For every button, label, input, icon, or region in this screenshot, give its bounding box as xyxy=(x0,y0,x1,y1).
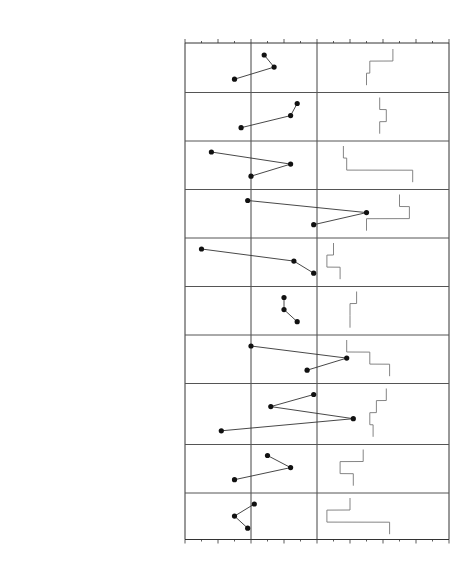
data-point xyxy=(219,428,224,433)
data-point xyxy=(351,416,356,421)
skyline-agg xyxy=(327,498,390,534)
profile-man xyxy=(199,246,316,275)
profile-chart xyxy=(0,0,476,573)
data-point xyxy=(305,368,310,373)
data-point xyxy=(288,162,293,167)
data-point xyxy=(295,101,300,106)
skyline-ant xyxy=(340,450,363,486)
data-point xyxy=(232,477,237,482)
profile-ant xyxy=(232,453,293,482)
data-point xyxy=(209,149,214,154)
data-point xyxy=(232,514,237,519)
data-point xyxy=(288,113,293,118)
data-point xyxy=(252,501,257,506)
profile-som xyxy=(232,52,277,81)
profile-bor xyxy=(219,392,356,434)
skyline-anx xyxy=(380,98,387,134)
data-point xyxy=(265,453,270,458)
data-point xyxy=(311,392,316,397)
data-point xyxy=(245,526,250,531)
profile-agg xyxy=(232,501,257,530)
skyline-ard xyxy=(343,146,412,182)
data-point xyxy=(288,465,293,470)
data-point xyxy=(248,343,253,348)
skyline-som xyxy=(367,49,393,85)
data-point xyxy=(281,307,286,312)
data-point xyxy=(311,222,316,227)
skyline-man xyxy=(327,243,340,279)
data-point xyxy=(311,271,316,276)
profile-par xyxy=(281,295,299,324)
skyline-bor xyxy=(370,389,387,437)
axes xyxy=(185,39,449,544)
data-point xyxy=(364,210,369,215)
skyline-scz xyxy=(347,340,390,376)
data-point xyxy=(344,356,349,361)
profile-anx xyxy=(239,101,300,130)
data-point xyxy=(272,65,277,70)
data-point xyxy=(248,174,253,179)
profile-dep xyxy=(245,198,369,227)
data-point xyxy=(199,246,204,251)
data-point xyxy=(262,52,267,57)
data-point xyxy=(295,319,300,324)
data-point xyxy=(239,125,244,130)
data-point xyxy=(281,295,286,300)
data-point xyxy=(232,77,237,82)
data-point xyxy=(291,259,296,264)
data-point xyxy=(268,404,273,409)
profile-scz xyxy=(248,343,349,372)
data-point xyxy=(245,198,250,203)
skyline-dep xyxy=(367,195,410,231)
skyline-par xyxy=(350,292,357,328)
